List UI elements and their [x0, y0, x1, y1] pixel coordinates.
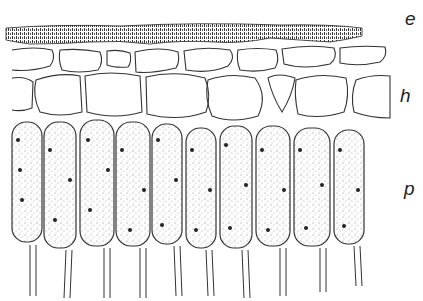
label-hypodermis: h	[400, 85, 411, 107]
label-epidermis: e	[405, 8, 416, 30]
label-palisade: p	[404, 178, 415, 200]
hypodermis-cells	[12, 73, 390, 120]
leaf-cross-section-drawing	[0, 0, 423, 301]
epidermal-cells	[12, 46, 386, 72]
lower-cell-walls	[30, 245, 362, 298]
epidermis-layer	[6, 24, 362, 44]
palisade-cells	[12, 120, 364, 248]
